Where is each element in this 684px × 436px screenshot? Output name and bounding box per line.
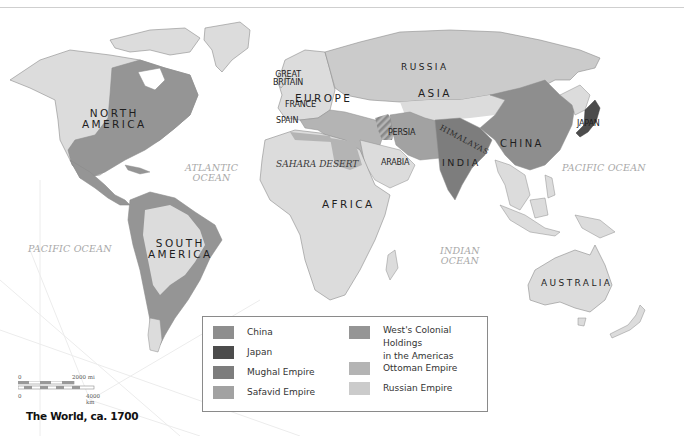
legend-swatch-ottoman <box>349 362 370 375</box>
map-title: The World, ca. 1700 <box>26 410 138 422</box>
label-japan: JAPAN <box>577 120 599 128</box>
legend-item-china: China <box>213 326 273 339</box>
legend-item-japan: Japan <box>213 346 272 359</box>
label-australia: AUSTRALIA <box>541 279 612 288</box>
label-russia: RUSSIA <box>401 63 448 72</box>
legend-label: Russian Empire <box>383 382 452 395</box>
scale-bottom-start: 0 <box>18 393 22 399</box>
legend-label: China <box>247 326 273 339</box>
legend-label: Safavid Empire <box>247 386 315 399</box>
legend-swatch-safavid <box>213 386 234 399</box>
scale-bottom-end: 4000 km <box>86 393 104 405</box>
legend-label: Japan <box>247 346 272 359</box>
legend-swatch-mughal <box>213 366 234 379</box>
label-atlantic-ocean: ATLANTIC OCEAN <box>185 163 238 184</box>
label-asia: ASIA <box>418 88 452 99</box>
scale-top-end: 2000 mi <box>72 374 95 380</box>
label-france: FRANCE <box>285 101 316 109</box>
label-great-britain: GREAT BRITAIN <box>273 71 303 88</box>
label-south-america: SOUTH AMERICA <box>148 238 213 260</box>
legend-item-safavid: Safavid Empire <box>213 386 315 399</box>
legend-item-colonial: West's Colonial Holdings in the Americas <box>349 324 487 363</box>
scale-bar-graphic <box>18 381 98 393</box>
legend-swatch-russian <box>349 382 370 395</box>
label-pacific-ocean-west: PACIFIC OCEAN <box>28 244 112 254</box>
scale-top-start: 0 <box>18 374 22 380</box>
label-india: INDIA <box>442 158 481 168</box>
label-arabia: ARABIA <box>381 159 409 167</box>
legend-item-ottoman: Ottoman Empire <box>349 362 457 375</box>
label-china: CHINA <box>500 139 544 149</box>
label-africa: AFRICA <box>322 199 375 210</box>
legend-item-russian: Russian Empire <box>349 382 452 395</box>
legend-item-mughal: Mughal Empire <box>213 366 314 379</box>
label-pacific-ocean-east: PACIFIC OCEAN <box>562 163 646 173</box>
legend-label: Ottoman Empire <box>383 362 457 375</box>
legend-label: Mughal Empire <box>247 366 314 379</box>
label-persia: PERSIA <box>388 129 415 137</box>
world-map: NORTH AMERICA SOUTH AMERICA EUROPE AFRIC… <box>0 0 684 436</box>
map-legend: China Japan Mughal Empire Safavid Empire… <box>202 316 488 412</box>
legend-swatch-china <box>213 326 234 339</box>
scale-bar: 0 2000 mi 0 4000 km <box>14 374 104 404</box>
legend-label: West's Colonial Holdings in the Americas <box>383 324 487 363</box>
label-north-america: NORTH AMERICA <box>82 108 147 130</box>
label-sahara-desert: SAHARA DESERT <box>276 160 358 169</box>
label-indian-ocean: INDIAN OCEAN <box>440 246 480 267</box>
legend-swatch-japan <box>213 346 234 359</box>
legend-swatch-colonial <box>349 326 370 339</box>
label-spain: SPAIN <box>276 117 298 125</box>
